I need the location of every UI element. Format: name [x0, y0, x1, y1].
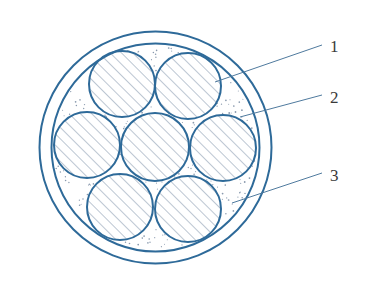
filler-dot [63, 170, 64, 171]
filler-dot [206, 179, 207, 180]
conductor-right [190, 115, 256, 181]
filler-dot [240, 192, 241, 193]
filler-dot [157, 189, 158, 190]
filler-dot [240, 183, 241, 184]
filler-dot [224, 184, 226, 186]
callout-label-1: 1 [330, 37, 339, 56]
filler-dot [225, 99, 227, 101]
conductor-top-right [155, 53, 221, 119]
conductor-top-left [89, 51, 155, 117]
filler-dot [174, 176, 175, 177]
filler-dot [239, 179, 240, 180]
filler-dot [210, 180, 211, 181]
filler-dot [161, 246, 162, 247]
filler-dot [82, 198, 84, 200]
filler-dot [137, 51, 138, 52]
filler-dot [143, 235, 145, 237]
filler-dot [69, 113, 70, 114]
filler-dot [141, 112, 143, 114]
filler-dot [70, 91, 71, 92]
filler-dot [244, 181, 246, 183]
filler-dot [84, 104, 85, 105]
filler-dot [228, 199, 230, 201]
conductor-bottom-left [87, 174, 153, 240]
filler-dot [75, 101, 77, 103]
callout-label-2: 2 [330, 88, 339, 107]
callout-label-3: 3 [330, 166, 339, 185]
conductor-center [121, 113, 189, 181]
filler-dot [76, 105, 78, 107]
filler-dot [170, 48, 172, 50]
filler-dot [226, 197, 227, 198]
filler-dot [148, 238, 150, 240]
filler-dot [83, 108, 84, 109]
filler-dot [247, 120, 248, 121]
filler-dot [64, 115, 65, 116]
filler-dot [222, 199, 223, 200]
filler-dot [126, 123, 127, 124]
filler-dot [151, 106, 152, 107]
filler-dot [241, 109, 243, 111]
filler-dot [155, 57, 156, 58]
filler-dot [235, 111, 237, 113]
filler-dot [79, 99, 81, 101]
filler-dot [93, 183, 95, 185]
filler-dot [161, 181, 162, 182]
filler-dot [241, 197, 243, 199]
filler-dot [60, 171, 62, 173]
filler-dot [228, 112, 230, 114]
filler-dot [216, 106, 217, 107]
filler-dot [244, 193, 245, 194]
filler-dot [65, 176, 66, 177]
filler-dot [225, 213, 227, 215]
filler-dot [155, 229, 156, 230]
filler-dot [222, 193, 224, 195]
filler-dot [230, 82, 231, 83]
filler-dot [55, 168, 57, 170]
filler-dot [233, 210, 235, 212]
filler-dot [237, 196, 238, 197]
filler-dot [156, 182, 157, 183]
filler-dot [212, 184, 213, 185]
filler-dot [127, 121, 128, 122]
filler-dot [171, 51, 172, 52]
filler-dot [167, 239, 168, 240]
filler-dot [188, 167, 189, 168]
filler-dot [153, 65, 154, 66]
filler-dot [87, 194, 89, 196]
filler-dot [231, 113, 232, 114]
filler-dot [251, 127, 253, 129]
filler-dot [249, 177, 251, 179]
filler-dot [129, 243, 131, 245]
filler-dot [221, 104, 222, 105]
filler-dot [147, 242, 149, 244]
filler-dot [156, 50, 158, 52]
conductor-left [54, 112, 120, 178]
filler-dot [137, 244, 139, 246]
filler-dot [192, 127, 193, 128]
filler-dot [190, 168, 191, 169]
filler-dot [194, 124, 195, 125]
filler-dot [229, 99, 230, 100]
filler-dot [228, 104, 229, 105]
filler-dot [81, 204, 82, 205]
filler-dot [79, 200, 80, 201]
filler-dot [238, 101, 240, 103]
filler-dot [178, 173, 180, 175]
filler-dot [162, 235, 163, 236]
filler-dot [242, 99, 243, 100]
filler-dot [238, 91, 239, 92]
filler-dot [155, 54, 157, 56]
filler-dot [123, 128, 125, 130]
filler-dot [193, 122, 195, 124]
filler-dot [177, 52, 178, 53]
filler-dot [154, 237, 155, 238]
filler-dot [232, 204, 233, 205]
filler-dot [88, 184, 89, 185]
filler-dot [182, 122, 183, 123]
filler-dot [164, 244, 165, 245]
filler-dot [62, 110, 63, 111]
filler-dot [149, 242, 150, 243]
filler-dot [57, 165, 59, 167]
filler-dot [233, 105, 235, 107]
